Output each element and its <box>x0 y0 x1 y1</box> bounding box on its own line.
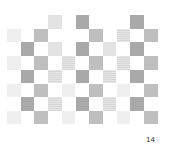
pattern-cell-light <box>103 42 117 56</box>
pattern-cell-dark <box>130 70 144 84</box>
pattern-cell-mid <box>89 111 103 125</box>
pattern-cell-vlight <box>7 111 21 125</box>
pattern-cell-striped <box>48 97 62 111</box>
pattern-cell-striped <box>103 70 117 84</box>
pattern-cell-mid <box>144 56 158 70</box>
pattern-cell-striped <box>103 97 117 111</box>
pattern-cell-vlight <box>7 56 21 70</box>
pattern-cell-striped <box>48 70 62 84</box>
pattern-cell-dark <box>76 70 90 84</box>
pattern-cell-mid <box>34 84 48 98</box>
pattern-cell-vlight <box>7 84 21 98</box>
checkerboard-pattern-figure <box>0 0 169 130</box>
pattern-cell-dark <box>130 42 144 56</box>
pattern-cell-dark <box>21 70 35 84</box>
pattern-cell-dark <box>21 42 35 56</box>
pattern-cell-light <box>48 15 62 29</box>
page-number: 14 <box>146 135 155 145</box>
pattern-cell-mid <box>144 111 158 125</box>
pattern-cell-dark <box>21 97 35 111</box>
pattern-cell-mid <box>34 56 48 70</box>
pattern-cell-vlight <box>62 111 76 125</box>
pattern-cell-dark <box>130 97 144 111</box>
pattern-cell-striped <box>117 56 131 70</box>
pattern-cell-mid <box>89 29 103 43</box>
pattern-cell-vlight <box>62 84 76 98</box>
pattern-cell-mid <box>144 84 158 98</box>
pattern-cell-dark <box>76 15 90 29</box>
pattern-cell-striped <box>117 29 131 43</box>
pattern-cell-dark <box>76 97 90 111</box>
pattern-cell-mid <box>34 29 48 43</box>
pattern-cell-striped <box>62 56 76 70</box>
pattern-cell-dark <box>130 15 144 29</box>
pattern-cell-mid <box>89 56 103 70</box>
pattern-cell-dark <box>76 42 90 56</box>
pattern-cell-mid <box>144 29 158 43</box>
pattern-cell-light <box>48 42 62 56</box>
pattern-cell-vlight <box>117 111 131 125</box>
pattern-cell-vlight <box>7 29 21 43</box>
pattern-cell-vlight <box>117 84 131 98</box>
pattern-cell-mid <box>34 111 48 125</box>
pattern-cell-mid <box>89 84 103 98</box>
